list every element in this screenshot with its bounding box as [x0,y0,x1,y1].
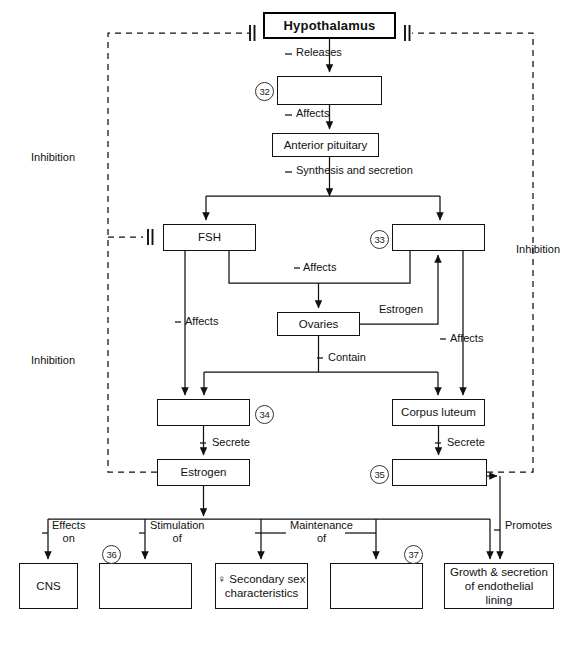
node-blank-34[interactable] [157,399,250,426]
edge-label-inhibition-left-bottom: Inhibition [31,354,75,367]
edge-label-secrete-progesterone: Secrete [447,436,485,449]
edge-label-affects-ovaries: Affects [303,261,336,274]
edge-label-synthesis-and-secretion: Synthesis and secretion [296,164,413,177]
edge-label-releases: Releases [296,46,342,59]
callout-number-34: 34 [255,405,274,424]
edge-label-promotes: Promotes [505,519,552,532]
node-blank-33[interactable] [392,224,485,251]
node-blank-32[interactable] [277,76,382,105]
node-corpus-luteum[interactable]: Corpus luteum [392,399,485,426]
node-estrogen[interactable]: Estrogen [157,459,250,486]
edge-label-effects-on: Effects on [52,519,85,545]
node-ovaries[interactable]: Ovaries [277,312,360,336]
node-blank-37[interactable] [330,563,423,609]
node-fsh[interactable]: FSH [163,224,256,251]
callout-number-35: 35 [370,465,389,484]
node-cns[interactable]: CNS [19,563,78,609]
edge-label-estrogen: Estrogen [379,303,423,316]
edge-label-contain: Contain [328,351,366,364]
callout-number-33: 33 [370,230,389,249]
edge-label-inhibition-left-top: Inhibition [31,151,75,164]
flowchart-canvas: Hypothalamus Anterior pituitary FSH Ovar… [0,0,577,645]
edge-label-affects-follicle: Affects [185,315,218,328]
edge-label-inhibition-right: Inhibition [516,243,560,256]
callout-number-32: 32 [255,82,274,101]
node-hypothalamus[interactable]: Hypothalamus [263,12,396,39]
edge-label-secrete-estrogen: Secrete [212,436,250,449]
node-endothelial-lining[interactable]: Growth & secretion of endothelial lining [444,563,554,609]
node-blank-35[interactable] [392,459,487,486]
edge-label-stimulation-of: Stimulation of [150,519,204,545]
callout-number-36: 36 [102,545,121,564]
node-secondary-sex-characteristics[interactable]: ♀ Secondary sex characteristics [215,563,308,609]
callout-number-37: 37 [404,545,423,564]
edge-label-affects-corpus-luteum: Affects [450,332,483,345]
edge-label-maintenance-of: Maintenance of [290,519,353,545]
node-anterior-pituitary[interactable]: Anterior pituitary [272,133,379,157]
edge-label-affects-pituitary: Affects [296,107,329,120]
node-blank-36[interactable] [99,563,192,609]
